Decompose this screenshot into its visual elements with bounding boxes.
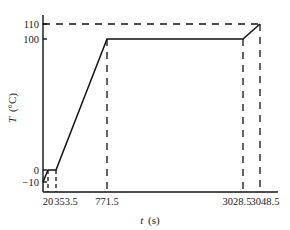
y-axis-label: T (°C) xyxy=(6,93,19,123)
x-axis-unit: (s) xyxy=(148,214,160,227)
y-axis-var: T xyxy=(6,116,18,123)
x-tick-label: 3028.5 xyxy=(223,196,252,207)
x-tick-label: 771.5 xyxy=(95,196,119,207)
x-tick-label: 3048.5 xyxy=(251,196,280,207)
x-axis-label: t (s) xyxy=(140,214,160,227)
y-tick-label: 100 xyxy=(23,34,39,45)
y-axis-unit: (°C) xyxy=(6,93,19,112)
x-axis-var: t xyxy=(140,214,144,226)
y-tick-label: 110 xyxy=(24,19,39,30)
x-tick-label: 20 xyxy=(43,196,54,207)
reference-lines xyxy=(43,24,260,192)
temperature-time-chart: 110 100 0 −10 20 353.5 771.5 3028.5 3048… xyxy=(0,0,290,230)
y-tick-label: 0 xyxy=(34,165,39,176)
x-tick-label: 353.5 xyxy=(54,196,78,207)
temperature-curve xyxy=(43,24,260,182)
y-tick-label: −10 xyxy=(23,177,39,188)
